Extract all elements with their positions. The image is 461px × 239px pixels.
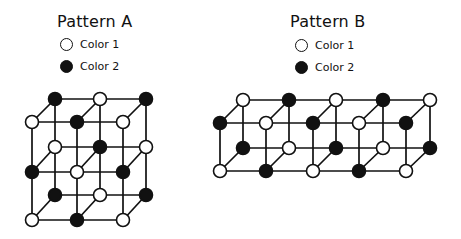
black-node-icon <box>424 142 437 155</box>
white-node-icon <box>237 94 250 107</box>
white-node-icon <box>424 94 437 107</box>
black-node-icon <box>400 117 413 130</box>
black-node-icon <box>330 142 343 155</box>
white-node-icon <box>307 165 320 178</box>
white-node-icon <box>260 117 273 130</box>
white-node-icon <box>377 142 390 155</box>
pattern-b-lattice <box>0 0 461 239</box>
white-node-icon <box>353 117 366 130</box>
black-node-icon <box>377 94 390 107</box>
white-node-icon <box>283 142 296 155</box>
white-node-icon <box>400 165 413 178</box>
black-node-icon <box>260 165 273 178</box>
black-node-icon <box>237 142 250 155</box>
black-node-icon <box>307 117 320 130</box>
black-node-icon <box>214 117 227 130</box>
black-node-icon <box>353 165 366 178</box>
white-node-icon <box>330 94 343 107</box>
white-node-icon <box>214 165 227 178</box>
black-node-icon <box>283 94 296 107</box>
